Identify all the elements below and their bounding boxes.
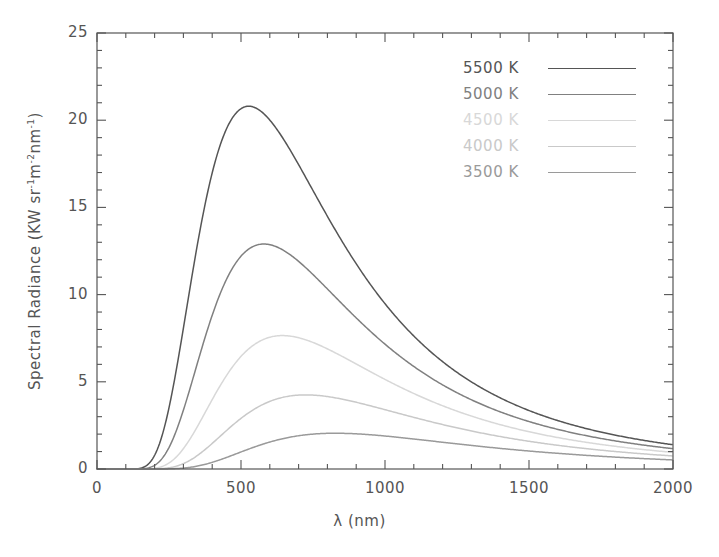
legend: 5500 K5000 K4500 K4000 K3500 K bbox=[463, 55, 636, 185]
y-axis-label-nm: nm bbox=[26, 128, 44, 153]
legend-label: 5500 K bbox=[463, 59, 548, 77]
y-axis-exp-2: -2 bbox=[26, 154, 36, 164]
y-tick-label-0: 0 bbox=[30, 459, 88, 477]
legend-label: 4000 K bbox=[463, 137, 548, 155]
legend-label: 4500 K bbox=[463, 111, 548, 129]
legend-item-3500-k: 3500 K bbox=[463, 159, 636, 185]
y-tick-label-10: 10 bbox=[30, 285, 88, 303]
legend-line-swatch bbox=[548, 146, 636, 147]
x-tick-label-1000: 1000 bbox=[345, 479, 425, 497]
y-axis-label: Spectral Radiance (KW sr-1m-2nm-1) bbox=[26, 33, 52, 469]
legend-line-swatch bbox=[548, 94, 636, 95]
x-axis-label: λ (nm) bbox=[0, 512, 719, 530]
curve-4000k bbox=[97, 395, 672, 469]
y-axis-exp-1: -1 bbox=[26, 179, 36, 189]
legend-line-swatch bbox=[548, 120, 636, 121]
y-tick-label-20: 20 bbox=[30, 110, 88, 128]
y-tick-label-5: 5 bbox=[30, 372, 88, 390]
y-tick-label-25: 25 bbox=[30, 23, 88, 41]
x-tick-label-500: 500 bbox=[201, 479, 281, 497]
legend-line-swatch bbox=[548, 172, 636, 173]
x-tick-label-0: 0 bbox=[57, 479, 137, 497]
legend-label: 5000 K bbox=[463, 85, 548, 103]
x-tick-label-2000: 2000 bbox=[633, 479, 713, 497]
legend-line-swatch bbox=[548, 68, 636, 69]
legend-item-5000-k: 5000 K bbox=[463, 81, 636, 107]
y-axis-label-m: m bbox=[26, 164, 44, 179]
x-tick-label-1500: 1500 bbox=[489, 479, 569, 497]
legend-item-4500-k: 4500 K bbox=[463, 107, 636, 133]
legend-label: 3500 K bbox=[463, 163, 548, 181]
legend-item-5500-k: 5500 K bbox=[463, 55, 636, 81]
y-tick-label-15: 15 bbox=[30, 197, 88, 215]
legend-item-4000-k: 4000 K bbox=[463, 133, 636, 159]
chart-figure: λ (nm) Spectral Radiance (KW sr-1m-2nm-1… bbox=[0, 0, 719, 557]
